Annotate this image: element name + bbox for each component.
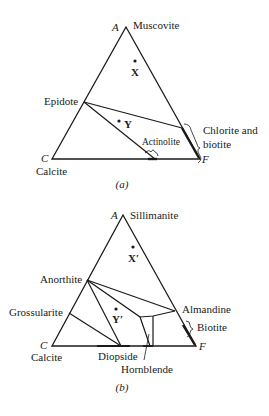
vertex-a-letter-b: A (110, 209, 118, 221)
point-x-prime-label: X′ (128, 252, 139, 264)
anorthite-label: Anorthite (40, 273, 82, 285)
vertex-c-letter-b: C (40, 339, 48, 351)
biotite-label: Biotite (197, 321, 227, 333)
vertex-a-letter: A (111, 21, 119, 33)
actinolite-label: Actinolite (142, 137, 180, 147)
tie-epidote-chlorite (84, 102, 182, 128)
acf-diagrams: A Muscovite X Y Epidote Actinolite Chlor… (0, 0, 269, 416)
vertex-f-letter-b: F (198, 340, 206, 352)
point-y-label: Y (124, 118, 132, 130)
diopside-label: Diopside (98, 350, 138, 362)
hornblende-top-edge (140, 311, 175, 317)
grossularite-label: Grossularite (9, 306, 63, 318)
biotite-range (183, 325, 195, 345)
vertex-c-letter: C (41, 152, 49, 164)
tie-epidote-actinolite (84, 102, 155, 159)
hornblende-label: Hornblende (121, 363, 173, 375)
vertex-a-mineral-b: Sillimanite (130, 209, 178, 221)
diagram-a: A Muscovite X Y Epidote Actinolite Chlor… (36, 19, 258, 191)
vertex-f-letter: F (201, 153, 209, 165)
vertex-c-mineral-b: Calcite (31, 351, 62, 363)
chlorite-label-line1: Chlorite and (203, 124, 258, 136)
caption-a: (a) (116, 178, 129, 191)
epidote-label: Epidote (44, 95, 78, 107)
hornblende-leader (144, 334, 149, 360)
point-x-dot (133, 59, 136, 62)
point-x-prime-dot (131, 245, 134, 248)
point-y-dot (117, 119, 120, 122)
caption-b: (b) (116, 381, 129, 394)
chlorite-label-line2: biotite (203, 138, 231, 150)
almandine-label: Almandine (182, 303, 231, 315)
point-y-prime-dot (114, 307, 117, 310)
diagram-b: A Sillimanite X′ Y′ Anorthite Grossulari… (9, 209, 231, 394)
point-x-label: X (131, 66, 139, 78)
vertex-c-mineral: Calcite (36, 165, 67, 177)
vertex-a-mineral: Muscovite (133, 19, 180, 31)
point-y-prime-label: Y′ (112, 313, 123, 325)
